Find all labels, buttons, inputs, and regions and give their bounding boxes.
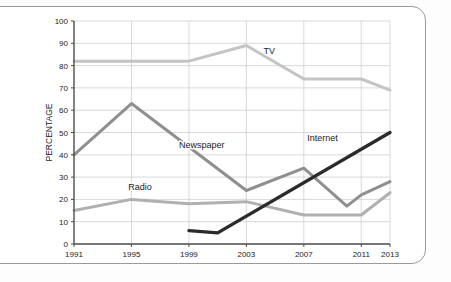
- series-label-tv: TV: [264, 46, 276, 56]
- axes: [71, 21, 390, 247]
- x-tick-label: 2003: [237, 250, 255, 259]
- x-tick-label: 1991: [65, 250, 83, 259]
- y-tick-label: 10: [59, 218, 68, 227]
- x-axis-tick-labels: 1991199519992003200720112013: [65, 250, 399, 259]
- y-tick-label: 30: [59, 173, 68, 182]
- x-tick-label: 2007: [295, 250, 313, 259]
- y-tick-label: 70: [59, 84, 68, 93]
- gridlines: [74, 21, 390, 244]
- y-tick-label: 80: [59, 62, 68, 71]
- screenshot-root: 1991199519992003200720112013 01020304050…: [0, 0, 451, 282]
- x-tick-label: 2011: [353, 250, 371, 259]
- y-tick-label: 0: [64, 240, 69, 249]
- line-chart: 1991199519992003200720112013 01020304050…: [0, 0, 451, 282]
- y-tick-label: 60: [59, 106, 68, 115]
- x-tick-label: 1999: [180, 250, 198, 259]
- series-line-tv: [74, 46, 390, 91]
- chart-svg: 1991199519992003200720112013 01020304050…: [0, 0, 451, 282]
- y-tick-label: 90: [59, 39, 68, 48]
- x-tick-label: 2013: [381, 250, 399, 259]
- series-label-radio: Radio: [128, 182, 152, 192]
- y-tick-label: 20: [59, 195, 68, 204]
- y-axis-title: PERCENTAGE: [44, 103, 54, 161]
- series-label-internet: Internet: [307, 133, 338, 143]
- x-tick-label: 1995: [123, 250, 141, 259]
- series-lines: [74, 46, 390, 233]
- series-label-newspaper: Newspaper: [179, 140, 225, 150]
- y-tick-label: 40: [59, 151, 68, 160]
- y-tick-label: 100: [55, 17, 69, 26]
- y-axis-tick-labels: 0102030405060708090100: [55, 17, 69, 249]
- y-tick-label: 50: [59, 129, 68, 138]
